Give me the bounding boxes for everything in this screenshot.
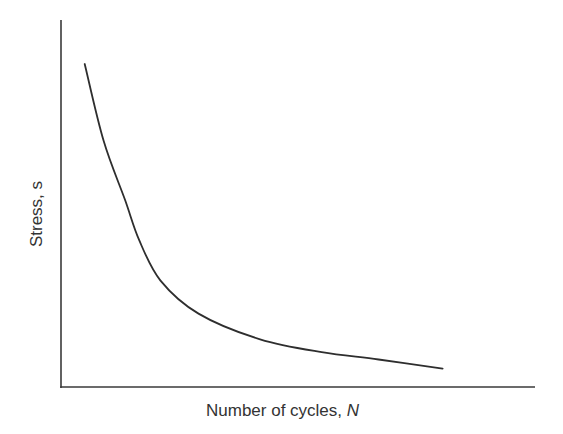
sn-curve-line — [85, 64, 443, 369]
y-axis-label: Stress, s — [27, 181, 47, 247]
y-axis-label-variable: s — [27, 181, 46, 190]
sn-curve-chart — [0, 0, 563, 434]
x-axis-label: Number of cycles, N — [206, 401, 359, 421]
y-axis-label-text: Stress, — [27, 189, 46, 247]
x-axis-label-variable: N — [347, 401, 359, 420]
x-axis-label-text: Number of cycles, — [206, 401, 347, 420]
